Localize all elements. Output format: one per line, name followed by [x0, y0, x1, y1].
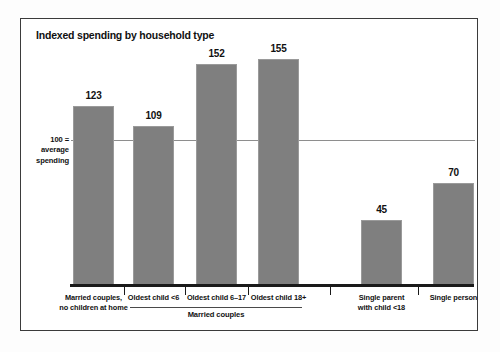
bar-rect-1[interactable]	[133, 126, 174, 285]
bar-rect-5[interactable]	[433, 183, 474, 285]
bar-column-oldest-child-under-6[interactable]: 109	[133, 110, 174, 285]
chart-frame: Indexed spending by household type 100 =…	[20, 18, 478, 331]
bar-value-3: 155	[258, 43, 299, 54]
bar-value-4: 45	[361, 204, 402, 215]
bar-column-single-parent[interactable]: 45	[361, 204, 402, 285]
bar-value-5: 70	[433, 167, 474, 178]
category-label-0-line-2: no children at home	[55, 303, 133, 313]
bar-value-2: 152	[196, 48, 237, 59]
category-label-3-line-1: Oldest child 18+	[240, 293, 318, 303]
bar-value-1: 109	[133, 110, 174, 121]
group-bracket-line-married-couples	[130, 307, 302, 308]
group-bracket-label-married-couples: Married couples	[130, 310, 302, 319]
category-label-4-line-2: with child <18	[343, 303, 421, 313]
bar-value-0: 123	[73, 90, 114, 101]
bar-rect-0[interactable]	[73, 106, 114, 285]
bar-rect-2[interactable]	[196, 64, 237, 285]
bar-column-oldest-child-6-17[interactable]: 152	[196, 48, 237, 285]
bar-column-married-no-children[interactable]: 123	[73, 90, 114, 285]
y-axis-label-line-3: spending	[21, 156, 69, 167]
indexed-spending-bar-chart: Indexed spending by household type 100 =…	[0, 0, 500, 352]
x-axis-baseline	[70, 284, 474, 287]
category-label-4-line-1: Single parent	[343, 293, 421, 303]
y-axis-label-line-1: 100 =	[21, 135, 69, 146]
category-label-single-person: Single person	[415, 293, 493, 303]
bar-rect-3[interactable]	[258, 59, 299, 285]
y-axis-label-line-2: average	[21, 145, 69, 156]
bar-column-single-person[interactable]: 70	[433, 167, 474, 285]
bar-column-oldest-child-18-plus[interactable]: 155	[258, 43, 299, 285]
category-label-single-parent: Single parent with child <18	[343, 293, 421, 313]
category-label-oldest-child-18-plus: Oldest child 18+	[240, 293, 318, 303]
axis-tick-3	[330, 287, 331, 295]
category-label-5-line-1: Single person	[415, 293, 493, 303]
bar-rect-4[interactable]	[361, 220, 402, 285]
chart-title: Indexed spending by household type	[36, 29, 214, 41]
y-axis-reference-label: 100 = average spending	[21, 135, 69, 167]
